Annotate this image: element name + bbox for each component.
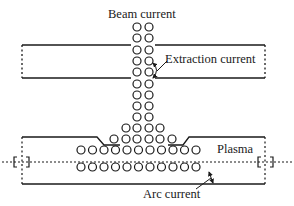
ion-particle xyxy=(145,68,153,76)
ion-particle xyxy=(133,68,141,76)
ion-particle xyxy=(181,163,189,171)
ion-particle xyxy=(133,113,141,121)
ion-particle xyxy=(89,163,97,171)
ion-particle xyxy=(110,135,118,143)
ion-particle xyxy=(133,23,141,31)
ion-particle xyxy=(135,163,143,171)
ion-particle xyxy=(158,146,166,154)
ion-particle xyxy=(77,163,85,171)
ion-particle xyxy=(146,163,154,171)
ion-particle xyxy=(133,91,141,99)
ion-source-diagram xyxy=(0,0,294,206)
ion-particle xyxy=(145,135,153,143)
ion-particle xyxy=(156,135,164,143)
arc-current-label: Arc current xyxy=(143,188,200,201)
ion-particle xyxy=(145,80,153,88)
ion-particle xyxy=(145,113,153,121)
ion-particle xyxy=(123,163,131,171)
ion-particle xyxy=(192,146,200,154)
ion-particle xyxy=(133,80,141,88)
ion-particle xyxy=(133,57,141,65)
ion-particle xyxy=(181,146,189,154)
ion-particle xyxy=(122,135,130,143)
ion-particle xyxy=(169,163,177,171)
ion-particle xyxy=(145,57,153,65)
ion-particle xyxy=(123,146,131,154)
ion-particle xyxy=(100,163,108,171)
ion-particle xyxy=(145,124,153,132)
ion-particle xyxy=(145,46,153,54)
ion-particle xyxy=(192,163,200,171)
ion-particle xyxy=(133,46,141,54)
ion-particle xyxy=(158,163,166,171)
ion-particle xyxy=(146,146,154,154)
ion-particle xyxy=(133,102,141,110)
extraction-current-label: Extraction current xyxy=(165,53,256,66)
ion-particle xyxy=(133,135,141,143)
plasma-label: Plasma xyxy=(217,143,253,156)
ion-particle xyxy=(112,146,120,154)
ion-particle xyxy=(169,146,177,154)
ion-particle xyxy=(145,91,153,99)
ion-particle xyxy=(112,163,120,171)
ion-particle xyxy=(100,146,108,154)
ion-particle xyxy=(89,146,97,154)
ion-particle xyxy=(156,124,164,132)
ion-particle xyxy=(133,34,141,42)
ion-particle xyxy=(122,124,130,132)
ion-particle xyxy=(133,124,141,132)
ion-particle xyxy=(145,102,153,110)
ion-particle xyxy=(77,146,85,154)
beam-current-label: Beam current xyxy=(108,8,176,21)
ion-particle xyxy=(145,34,153,42)
ion-particle xyxy=(145,23,153,31)
ion-particle xyxy=(135,146,143,154)
ion-particle xyxy=(168,135,176,143)
